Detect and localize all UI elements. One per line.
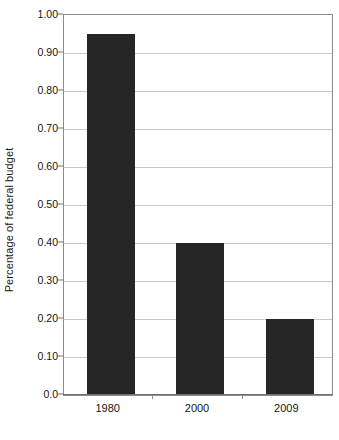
y-tick-label: 0.80	[20, 84, 58, 96]
y-tick-mark	[58, 394, 63, 395]
x-tick-label: 2009	[274, 402, 298, 414]
bar	[266, 319, 314, 395]
y-tick-mark	[58, 280, 63, 281]
y-tick-mark	[58, 128, 63, 129]
y-tick-mark	[58, 242, 63, 243]
y-tick-mark	[58, 14, 63, 15]
y-tick-label: 0.0	[20, 388, 58, 400]
y-tick-label: 0.20	[20, 312, 58, 324]
y-tick-mark	[58, 356, 63, 357]
y-tick-label: 0.30	[20, 274, 58, 286]
y-tick-mark	[58, 204, 63, 205]
y-tick-mark	[58, 90, 63, 91]
plot-area	[63, 14, 333, 396]
y-tick-label: 0.70	[20, 122, 58, 134]
y-axis-tick-labels: 0.00.100.200.300.400.500.600.700.800.901…	[20, 0, 58, 440]
bar-chart: Percentage of federal budget 0.00.100.20…	[0, 0, 339, 440]
y-axis-title: Percentage of federal budget	[0, 0, 18, 440]
x-tick-label: 1980	[95, 402, 119, 414]
y-tick-label: 0.50	[20, 198, 58, 210]
y-tick-label: 0.90	[20, 46, 58, 58]
y-tick-label: 0.40	[20, 236, 58, 248]
x-axis-line	[63, 394, 332, 395]
bar	[176, 243, 224, 395]
y-tick-label: 0.10	[20, 350, 58, 362]
y-tick-mark	[58, 52, 63, 53]
y-tick-mark	[58, 166, 63, 167]
y-tick-mark	[58, 318, 63, 319]
x-tick-mark	[242, 395, 243, 399]
y-tick-label: 0.60	[20, 160, 58, 172]
y-tick-label: 1.00	[20, 8, 58, 20]
x-tick-label: 2000	[185, 402, 209, 414]
bar	[87, 34, 135, 395]
x-tick-mark	[152, 395, 153, 399]
